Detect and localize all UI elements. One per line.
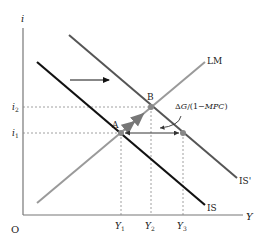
point-b <box>148 104 154 110</box>
annotation-open: /(1− <box>187 102 205 111</box>
x-axis-label: Y <box>246 211 254 222</box>
i2-tick-sub: 2 <box>15 106 19 113</box>
point-a <box>118 130 124 136</box>
guide-lines <box>23 107 183 215</box>
diagram-canvas: i Y O LM IS IS' A B i2 i1 Y1 Y2 Y3 ΔG/(1… <box>0 0 265 247</box>
y2-tick-sub: 2 <box>151 225 155 232</box>
origin-label: O <box>11 224 19 235</box>
is-lm-diagram: i Y O LM IS IS' A B i2 i1 Y1 Y2 Y3 ΔG/(1… <box>0 0 265 247</box>
y3-tick-label: Y3 <box>177 221 187 232</box>
i1-tick-sub: 1 <box>15 132 19 139</box>
y2-tick-label: Y2 <box>145 221 155 232</box>
multiplier-annotation: ΔG/(1−MPC) <box>175 102 228 111</box>
point-y3 <box>180 130 186 136</box>
point-a-label: A <box>111 120 119 130</box>
y3-tick-sub: 3 <box>183 225 187 232</box>
annotation-close: ) <box>224 102 227 111</box>
y-axis-label: i <box>21 13 24 24</box>
y1-tick-sub: 1 <box>121 225 125 232</box>
point-b-label: B <box>147 92 154 102</box>
lm-label: LM <box>207 56 222 66</box>
i2-tick-label: i2 <box>12 102 19 113</box>
a-to-b-arrow-1 <box>124 122 134 130</box>
annotation-mpc: MPC <box>204 102 225 111</box>
i1-tick-label: i1 <box>12 128 19 139</box>
is-label: IS <box>207 203 217 213</box>
y1-tick-label: Y1 <box>115 221 125 232</box>
is-prime-label: IS' <box>239 176 251 186</box>
a-to-b-arrow-2 <box>134 114 143 122</box>
